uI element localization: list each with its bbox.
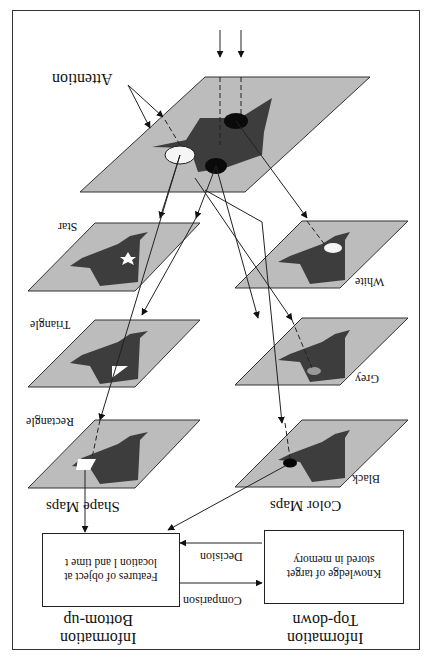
rectangle-label: Rectangle [26,415,74,428]
white-label: White [355,275,384,288]
triangle-label: Triangle [30,318,70,331]
grey-label: Grey [355,372,379,385]
top-down-heading: Information Top-down [287,612,363,647]
bottom-up-heading: Information Bottom-up [60,612,136,647]
rectangle-map-plane [28,420,200,488]
attention-label: Attention [52,70,112,88]
top-down-heading-line2: Information [287,630,363,648]
bottom-up-heading-line1: Bottom-up [60,612,136,630]
decision-label: Decision [200,550,243,563]
grey-map-plane [235,318,408,385]
bottom-up-box: Features of object at location l and tim… [42,533,180,607]
comparison-label: Comparison [183,594,242,607]
bottom-up-heading-line2: Information [60,630,136,648]
shape-maps-label: Shape Maps [46,498,120,515]
top-down-heading-line1: Top-down [287,612,363,630]
top-down-box-text: Knowledge of target stored in memory [265,553,403,582]
black-map-plane [235,420,408,487]
black-label: Black [352,472,380,485]
master-map-plane [80,77,370,192]
top-down-box: Knowledge of target stored in memory [264,530,404,604]
bottom-up-box-text: Features of object at location l and tim… [43,556,179,585]
star-label: Star [58,220,77,233]
color-maps-label: Color Maps [270,497,341,514]
